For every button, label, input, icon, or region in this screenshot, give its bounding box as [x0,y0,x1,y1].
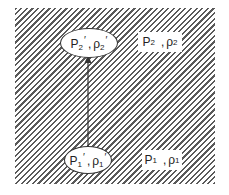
state-1-prime-ellipse: P1′,ρ1′ [64,146,112,174]
state-2-prime-ellipse: P2′,ρ2′ [60,28,118,58]
state-1-label: P1,ρ1 [142,150,182,170]
state-2-label: P2,ρ2 [138,32,182,52]
state-label: P1′,ρ1′ [70,152,107,169]
transition-arrow [0,0,229,195]
state-label: P2′,ρ2′ [71,35,108,52]
